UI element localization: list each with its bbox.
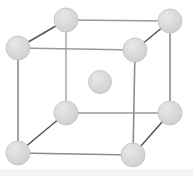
edge-bottom-front bbox=[18, 153, 133, 155]
atom-corner-front-bottom-left bbox=[158, 101, 182, 125]
lattice-diagram bbox=[0, 0, 193, 176]
atom-corner-back-top-left bbox=[6, 36, 30, 60]
atom-corner-front-top-left bbox=[158, 9, 182, 33]
atom-corner-back-bottom-right bbox=[54, 101, 78, 125]
bcc-unit-cell-figure bbox=[0, 0, 193, 176]
edge-top-front-left bbox=[18, 48, 135, 50]
atom-corner-front-bottom-right bbox=[121, 143, 145, 167]
atom-corner-front-top-right bbox=[123, 38, 147, 62]
edge-vert-front bbox=[133, 50, 135, 155]
lattice-atoms bbox=[6, 8, 182, 167]
edge-top-rear-right bbox=[66, 20, 170, 21]
atom-corner-back-top-right bbox=[54, 8, 78, 32]
atom-body-center bbox=[89, 71, 112, 94]
atom-corner-back-bottom-left bbox=[6, 141, 30, 165]
